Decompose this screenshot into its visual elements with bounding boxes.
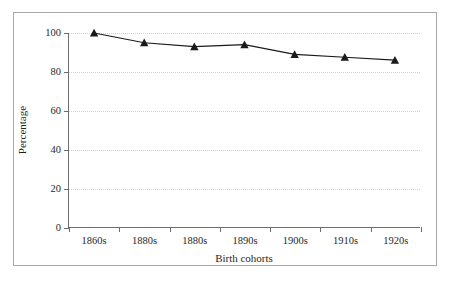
x-axis-tick-label: 1910s — [333, 236, 358, 247]
x-axis-tick-label: 1890s — [232, 236, 257, 247]
line-series — [69, 33, 420, 227]
x-axis-tick — [371, 227, 372, 232]
y-axis-tick-label: 100 — [45, 28, 61, 39]
x-axis-tick-label: 1880s — [132, 236, 157, 247]
x-axis-tick-label: 1920s — [383, 236, 408, 247]
figure-container: Percentage 020406080100 1860s1880s1880s1… — [0, 0, 450, 281]
y-axis-tick-label: 40 — [51, 145, 62, 156]
x-axis-tick — [421, 227, 422, 232]
x-axis-tick-label: 1900s — [283, 236, 308, 247]
x-axis-title: Birth cohorts — [68, 252, 420, 264]
x-axis-tick — [220, 227, 221, 232]
x-axis-tick — [69, 227, 70, 232]
y-axis-title: Percentage — [16, 106, 28, 154]
x-axis-tick-label: 1860s — [82, 236, 107, 247]
y-axis-tick-label: 80 — [51, 67, 62, 78]
y-axis-tick-label: 0 — [56, 223, 61, 234]
x-axis-tick — [320, 227, 321, 232]
plot-area: 020406080100 1860s1880s1880s1890s1900s19… — [68, 33, 420, 228]
y-axis-tick-label: 20 — [51, 184, 62, 195]
x-axis-tick — [119, 227, 120, 232]
y-axis-tick-label: 60 — [51, 106, 62, 117]
x-axis-tick — [270, 227, 271, 232]
x-axis-tick — [170, 227, 171, 232]
x-axis-tick-label: 1880s — [182, 236, 207, 247]
